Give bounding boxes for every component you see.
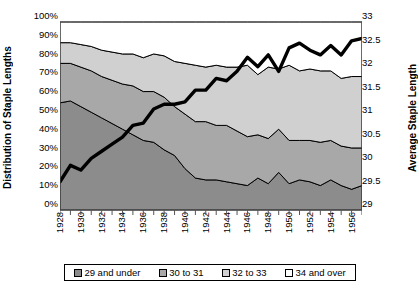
y-axis-left-tick: 40% [18,124,58,134]
legend-swatch-icon [74,269,82,277]
legend-label: 32 to 33 [232,267,266,278]
legend-label: 30 to 31 [169,267,203,278]
y-axis-right-tick: 32.5 [362,35,396,45]
y-axis-right-title: Average Staple Length [407,18,418,218]
y-axis-left-tick: 20% [18,161,58,171]
y-axis-left-tick: 0% [18,199,58,209]
legend-swatch-icon [159,269,167,277]
y-axis-left-tick: 60% [18,86,58,96]
y-axis-left-ticks: 100%90%80%70%60%50%40%30%20%10%0% [18,10,58,210]
chart-figure: Distribution of Staple Lengths Average S… [0,0,419,290]
legend-label: 29 and under [84,267,140,278]
y-axis-right-tick: 31.5 [362,82,396,92]
y-axis-left-tick: 50% [18,105,58,115]
y-axis-left-tick: 80% [18,49,58,59]
legend-swatch-icon [222,269,230,277]
y-axis-left-tick: 70% [18,67,58,77]
legend-item[interactable]: 34 and over [285,267,345,278]
legend-item[interactable]: 30 to 31 [159,267,203,278]
y-axis-right-tick: 29 [362,199,396,209]
y-axis-left-title: Distribution of Staple Lengths [2,18,13,218]
legend-item[interactable]: 29 and under [74,267,140,278]
y-axis-right-tick: 29.5 [362,176,396,186]
y-axis-right-tick: 30.5 [362,129,396,139]
y-axis-left-tick: 100% [18,11,58,21]
legend-label: 34 and over [295,267,345,278]
y-axis-right-tick: 32 [362,58,396,68]
legend-item[interactable]: 32 to 33 [222,267,266,278]
y-axis-right-tick: 30 [362,152,396,162]
chart-legend: 29 and under30 to 3132 to 3334 and over [64,264,356,281]
y-axis-left-tick: 10% [18,180,58,190]
legend-swatch-icon [285,269,293,277]
y-axis-left-tick: 30% [18,143,58,153]
y-axis-right-ticks: 3332.53231.53130.53029.529 [362,10,396,210]
y-axis-left-tick: 90% [18,30,58,40]
plot-area [60,16,362,204]
y-axis-right-tick: 33 [362,11,396,21]
chart-svg [60,16,362,216]
y-axis-right-tick: 31 [362,105,396,115]
